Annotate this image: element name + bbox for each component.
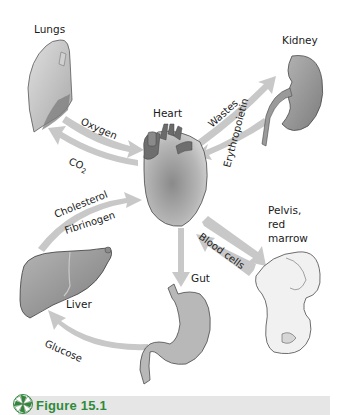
label-pelvis-line3: marrow: [268, 232, 308, 244]
label-pelvis-line1: Pelvis,: [268, 204, 301, 216]
gut-illustration: [140, 284, 210, 384]
label-glucose: Glucose: [43, 338, 84, 364]
label-lungs: Lungs: [34, 23, 65, 35]
label-gut: Gut: [191, 272, 210, 284]
label-heart: Heart: [153, 107, 182, 119]
figure-caption-bar: Figure 15.1: [18, 396, 330, 415]
pinwheel-figure-icon: [12, 393, 34, 415]
label-liver: Liver: [66, 298, 92, 310]
label-co2: CO2: [66, 156, 89, 176]
label-pelvis-line2: red: [268, 218, 285, 230]
heart-illustration: [144, 124, 207, 226]
pelvis-illustration: [256, 252, 321, 354]
figure-label: Figure 15.1: [36, 398, 107, 413]
organ-interaction-diagram: Lungs Heart Kidney Liver Gut Pelvis, red…: [0, 0, 344, 395]
kidney-illustration: [262, 56, 323, 147]
label-kidney: Kidney: [282, 34, 318, 46]
arrow-heart-gut: [172, 228, 190, 287]
